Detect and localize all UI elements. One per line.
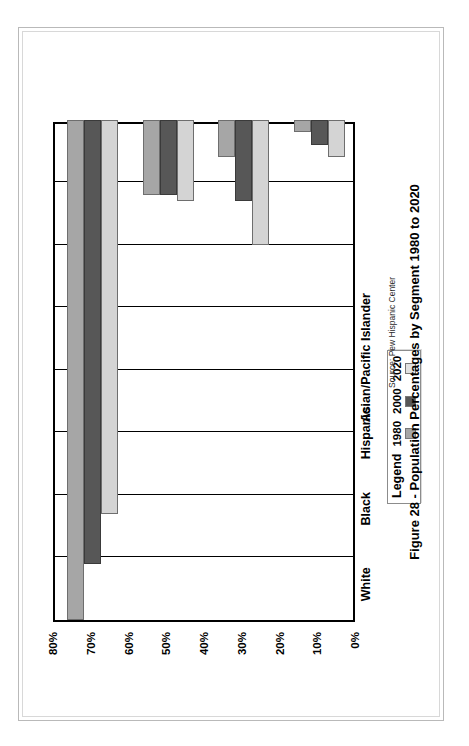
- y-tick-label: 80%: [47, 632, 59, 718]
- bar-group: [55, 124, 131, 620]
- bar-asian-pacific-islander-2020: [327, 120, 344, 158]
- y-tick-label: 20%: [273, 632, 285, 718]
- chart-stage: 80%70%60%50%40%30%20%10%0% WhiteBlackHis…: [35, 28, 435, 718]
- figure-page: 80%70%60%50%40%30%20%10%0% WhiteBlackHis…: [0, 0, 469, 746]
- y-tick-label: 50%: [160, 632, 172, 718]
- legend-item-label: 1980: [391, 421, 403, 447]
- bar-black-1980: [142, 120, 159, 195]
- bar-group: [281, 124, 357, 620]
- y-tick-label: 0%: [349, 632, 361, 718]
- value-axis: 80%70%60%50%40%30%20%10%0%: [53, 632, 355, 718]
- legend-item-label: 2000: [391, 388, 403, 414]
- category-label-black: Black: [359, 492, 373, 525]
- y-tick-label: 70%: [84, 632, 96, 718]
- plot-area: [53, 122, 355, 622]
- bar-white-2000: [84, 120, 101, 564]
- bar-hispanic-2000: [235, 120, 252, 201]
- bar-black-2020: [176, 120, 193, 201]
- y-tick-label: 10%: [311, 632, 323, 718]
- y-tick-label: 30%: [235, 632, 247, 718]
- bar-group: [130, 124, 206, 620]
- bar-black-2000: [159, 120, 176, 195]
- bar-asian-pacific-islander-2000: [310, 120, 327, 145]
- category-label-asian-pacific-islander: Asian/Pacific Islander: [359, 293, 373, 422]
- bar-hispanic-2020: [252, 120, 269, 245]
- legend-title: Legend: [391, 454, 404, 498]
- y-tick-label: 60%: [122, 632, 134, 718]
- source-note: Source: Pew Hispanic Center: [387, 277, 397, 388]
- bar-white-1980: [67, 120, 84, 620]
- bar-hispanic-1980: [218, 120, 235, 158]
- category-axis: WhiteBlackHispanicAsian/Pacific Islander: [359, 122, 381, 622]
- category-label-white: White: [359, 567, 373, 601]
- bar-group: [206, 124, 282, 620]
- figure-caption: Figure 28 - Population Percentages by Se…: [407, 122, 422, 622]
- y-tick-label: 40%: [198, 632, 210, 718]
- bar-white-2020: [101, 120, 118, 514]
- bar-asian-pacific-islander-1980: [293, 120, 310, 133]
